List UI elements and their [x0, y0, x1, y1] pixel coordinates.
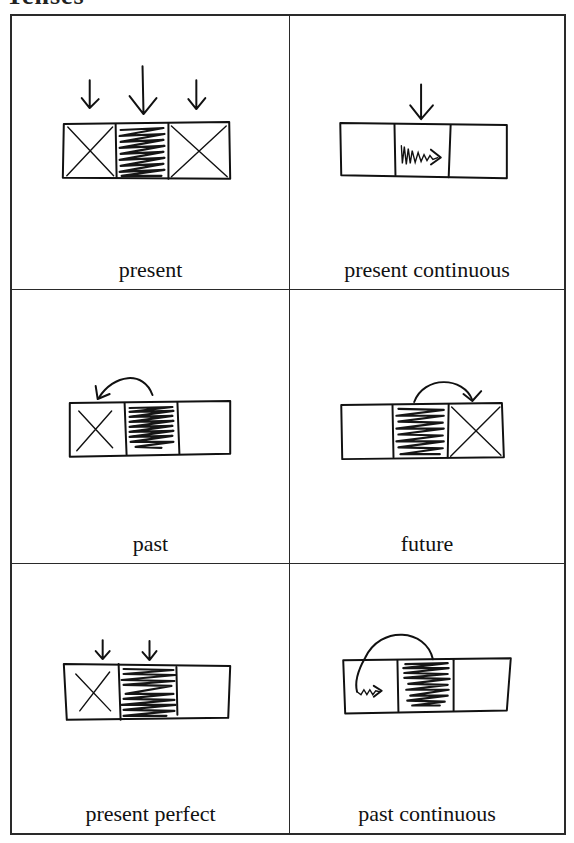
cross-icon	[67, 127, 114, 176]
cell-present-perfect: present perfect	[12, 564, 290, 833]
present-perfect-timeline-diagram	[12, 564, 289, 784]
caption-present-continuous: present continuous	[290, 257, 564, 283]
timeline-boxes	[340, 123, 507, 178]
caption-present: present	[12, 257, 289, 283]
present-timeline-diagram	[12, 16, 289, 236]
arrow-down-icon	[96, 640, 110, 659]
present-continuous-timeline-diagram	[290, 16, 564, 236]
cross-icon	[76, 672, 111, 711]
shading-scribble-icon	[403, 663, 449, 705]
cross-icon	[171, 126, 227, 177]
shading-scribble-icon	[122, 669, 176, 716]
wavy-arrow-right-icon	[401, 146, 440, 165]
past-timeline-diagram	[12, 290, 289, 510]
page-title-clipped: Tenses	[0, 0, 574, 6]
caption-present-perfect: present perfect	[12, 801, 289, 827]
page-title: Tenses	[6, 0, 85, 6]
shading-scribble-icon	[396, 409, 443, 454]
cell-present-continuous: present continuous	[290, 16, 564, 290]
arrow-down-icon	[82, 80, 99, 108]
cell-future: future	[290, 290, 564, 564]
cross-icon	[451, 407, 501, 456]
cell-present: present	[12, 16, 290, 290]
caption-past: past	[12, 531, 289, 557]
arrow-down-icon	[410, 85, 433, 119]
arrow-down-icon	[188, 80, 205, 109]
past-continuous-timeline-diagram	[290, 564, 564, 784]
curved-arrow-right-icon	[414, 382, 481, 402]
cross-icon	[77, 411, 113, 451]
cell-past: past	[12, 290, 290, 564]
shading-scribble-icon	[130, 407, 174, 448]
tenses-grid: present present continuous	[10, 14, 566, 835]
cell-past-continuous: past continuous	[290, 564, 564, 833]
caption-future: future	[290, 531, 564, 557]
arrow-down-icon	[143, 641, 157, 660]
shading-scribble-icon	[120, 128, 165, 176]
caption-past-continuous: past continuous	[290, 801, 564, 827]
future-timeline-diagram	[290, 290, 564, 510]
curved-arrow-left-icon	[96, 378, 153, 399]
arrow-down-icon	[130, 66, 157, 114]
